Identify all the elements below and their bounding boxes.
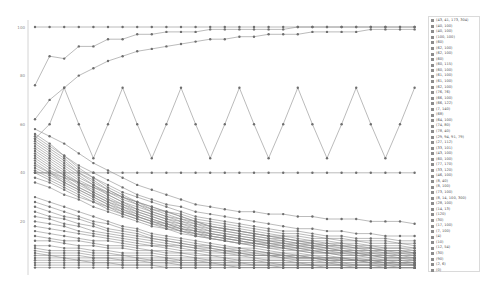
data-point xyxy=(399,123,401,125)
data-point xyxy=(136,259,138,261)
data-point xyxy=(194,172,196,174)
data-point xyxy=(413,264,415,266)
data-point xyxy=(194,220,196,222)
data-point xyxy=(48,215,50,217)
data-point xyxy=(282,213,284,215)
data-point xyxy=(151,48,153,50)
data-point xyxy=(399,254,401,256)
legend-swatch-icon xyxy=(431,53,434,56)
data-point xyxy=(311,228,313,230)
data-point xyxy=(311,254,313,256)
data-point xyxy=(267,249,269,251)
data-point xyxy=(370,242,372,244)
data-point xyxy=(267,257,269,259)
legend-swatch-icon xyxy=(431,80,434,83)
data-point xyxy=(136,26,138,28)
data-point xyxy=(48,162,50,164)
data-point xyxy=(151,237,153,239)
data-point xyxy=(92,242,94,244)
data-point xyxy=(63,240,65,242)
legend-swatch-icon xyxy=(431,208,434,211)
data-point xyxy=(78,237,80,239)
data-point xyxy=(136,232,138,234)
data-point xyxy=(282,247,284,249)
data-point xyxy=(238,254,240,256)
data-point xyxy=(311,237,313,239)
data-point xyxy=(107,230,109,232)
data-point xyxy=(121,213,123,215)
data-point xyxy=(34,169,36,171)
data-point xyxy=(78,198,80,200)
data-point xyxy=(209,228,211,230)
data-point xyxy=(48,228,50,230)
data-point xyxy=(78,232,80,234)
data-point xyxy=(399,28,401,30)
data-point xyxy=(107,240,109,242)
legend: (43, 41, 173, 304)(40, 100)(40, 100)(100… xyxy=(428,16,480,272)
data-point xyxy=(340,26,342,28)
data-point xyxy=(92,172,94,174)
data-point xyxy=(224,249,226,251)
data-point xyxy=(413,259,415,261)
data-point xyxy=(326,259,328,261)
data-point xyxy=(121,206,123,208)
data-point xyxy=(297,230,299,232)
data-point xyxy=(253,211,255,213)
data-point xyxy=(282,249,284,251)
data-point xyxy=(34,247,36,249)
data-point xyxy=(282,245,284,247)
data-point xyxy=(194,40,196,42)
data-point xyxy=(48,223,50,225)
series-line xyxy=(35,29,415,119)
data-point xyxy=(180,230,182,232)
y-axis: 20406080100 xyxy=(17,20,28,275)
data-point xyxy=(136,237,138,239)
data-point xyxy=(63,189,65,191)
data-point xyxy=(209,252,211,254)
data-point xyxy=(107,60,109,62)
data-point xyxy=(370,257,372,259)
data-point xyxy=(34,177,36,179)
data-point xyxy=(92,186,94,188)
data-point xyxy=(355,218,357,220)
data-point xyxy=(297,262,299,264)
data-point xyxy=(34,257,36,259)
data-point xyxy=(194,123,196,125)
data-point xyxy=(136,228,138,230)
data-point xyxy=(194,228,196,230)
data-point xyxy=(92,194,94,196)
data-point xyxy=(413,254,415,256)
data-point xyxy=(180,252,182,254)
data-point xyxy=(326,266,328,268)
data-point xyxy=(370,266,372,268)
data-point xyxy=(267,230,269,232)
data-point xyxy=(311,264,313,266)
data-point xyxy=(165,264,167,266)
data-point xyxy=(370,240,372,242)
data-point xyxy=(165,254,167,256)
legend-swatch-icon xyxy=(431,125,434,128)
data-point xyxy=(370,259,372,261)
data-point xyxy=(224,266,226,268)
data-point xyxy=(340,252,342,254)
data-point xyxy=(92,157,94,159)
y-tick-label: 20 xyxy=(20,219,26,224)
data-point xyxy=(48,245,50,247)
data-point xyxy=(370,237,372,239)
data-point xyxy=(180,213,182,215)
data-point xyxy=(340,31,342,33)
data-point xyxy=(399,235,401,237)
data-point xyxy=(121,194,123,196)
legend-swatch-icon xyxy=(431,130,434,133)
data-point xyxy=(151,198,153,200)
data-point xyxy=(121,240,123,242)
data-point xyxy=(311,26,313,28)
data-point xyxy=(384,257,386,259)
data-point xyxy=(48,174,50,176)
data-point xyxy=(399,252,401,254)
data-point xyxy=(238,242,240,244)
legend-item[interactable]: (0) xyxy=(431,268,477,274)
data-point xyxy=(238,240,240,242)
data-point xyxy=(34,26,36,28)
data-point xyxy=(34,162,36,164)
